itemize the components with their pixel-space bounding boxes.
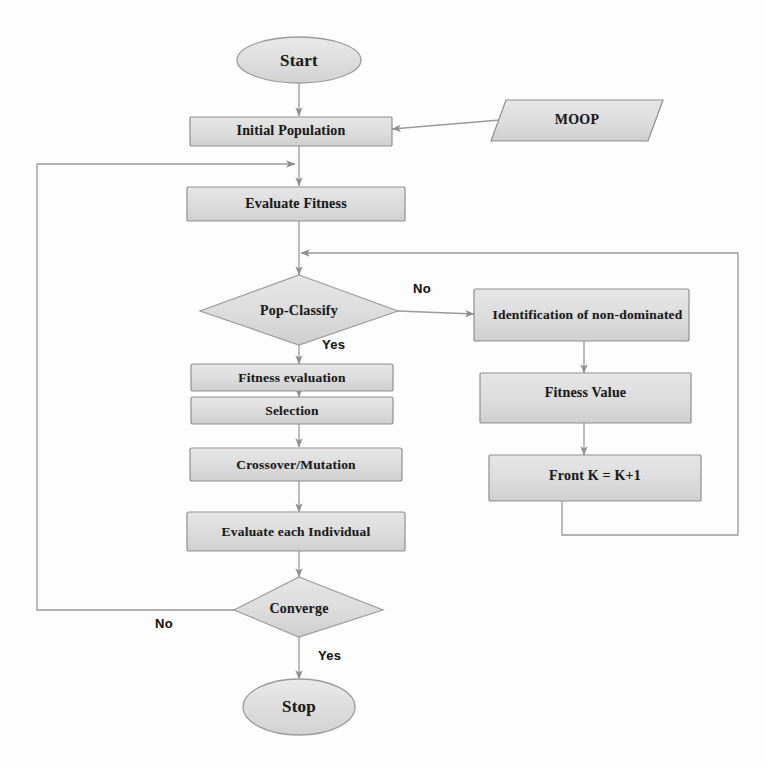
- node-selection-hit[interactable]: [191, 397, 393, 424]
- node-start-hit[interactable]: [237, 37, 361, 83]
- node-converge-hit[interactable]: [234, 577, 383, 637]
- node-identification-hit[interactable]: [474, 289, 689, 341]
- edge-label-pop-classify-no: No: [413, 281, 431, 296]
- node-fitness-value-hit[interactable]: [480, 373, 691, 423]
- edge-label-converge-yes: Yes: [318, 648, 341, 663]
- node-pop-classify-hit[interactable]: [200, 275, 398, 345]
- node-evaluate-each-individual-hit[interactable]: [187, 512, 405, 551]
- node-initial-population-hit[interactable]: [190, 117, 392, 146]
- node-front-k-hit[interactable]: [489, 455, 701, 501]
- flowchart-canvas: Start Initial Population MOOP Evaluate F…: [0, 0, 766, 767]
- node-moop-hit[interactable]: [491, 100, 663, 141]
- edge-pop-classify-no-to-identification: [398, 311, 474, 314]
- node-crossover-mutation-hit[interactable]: [190, 448, 402, 481]
- node-fitness-evaluation-hit[interactable]: [191, 364, 393, 391]
- node-stop-hit[interactable]: [243, 679, 355, 735]
- edge-label-converge-no: No: [155, 616, 173, 631]
- edge-moop-to-initial-population: [392, 120, 500, 129]
- node-evaluate-fitness-hit[interactable]: [187, 187, 405, 221]
